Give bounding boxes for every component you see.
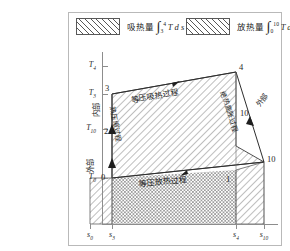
point-label-2: 2	[104, 126, 108, 136]
point-label-10: 10	[267, 154, 276, 164]
point-label-4: 4	[239, 62, 243, 72]
x-label-s3: s3	[103, 230, 121, 241]
point-label-0: 0	[101, 172, 105, 182]
region-heat-absorbed-right	[236, 162, 264, 224]
legend-item-heat-released: 放热量 ∫010 T d s	[186, 18, 290, 35]
legend-swatch-heat-absorbed	[76, 18, 120, 35]
legend-swatch-heat-released	[186, 18, 230, 35]
y-tick-t3	[102, 94, 108, 95]
point-label-1: 1	[226, 174, 230, 184]
x-label-s4: s4	[227, 230, 245, 241]
point-label-3: 3	[105, 83, 109, 93]
y-label-t4: T4	[70, 60, 96, 71]
y-axis	[102, 52, 103, 224]
legend-label-heat-absorbed: 吸热量 ∫34 T d s	[127, 20, 184, 34]
y-label-t0: T0	[70, 172, 96, 183]
x-tick-s0	[90, 224, 91, 229]
label-external-left: 外部	[84, 159, 95, 173]
y-label-t3: T3	[70, 88, 96, 99]
x-tick-s10	[264, 224, 265, 229]
x-tick-s4	[236, 224, 237, 229]
plot-area: T4 T3 T10 T0 s0 s3 s4 s10 3 4 2 10 10 1 …	[68, 50, 282, 246]
region-heat-absorbed-left	[90, 178, 112, 224]
point-label-9: 10	[240, 108, 249, 118]
x-label-s0: s0	[81, 230, 99, 241]
x-axis	[102, 224, 278, 225]
x-tick-s3	[112, 224, 113, 229]
ts-diagram-root: 吸热量 ∫34 T d s 放热量 ∫010 T d s	[0, 0, 290, 251]
legend-item-heat-absorbed: 吸热量 ∫34 T d s	[76, 18, 184, 35]
legend: 吸热量 ∫34 T d s 放热量 ∫010 T d s	[0, 0, 290, 48]
label-internal: 内部	[90, 103, 101, 117]
y-label-t10: T10	[68, 123, 96, 134]
cycle-graphic	[68, 50, 282, 246]
y-tick-t4	[102, 66, 108, 67]
x-label-s10: s10	[255, 230, 273, 241]
legend-label-heat-released: 放热量 ∫010 T d s	[237, 20, 290, 34]
